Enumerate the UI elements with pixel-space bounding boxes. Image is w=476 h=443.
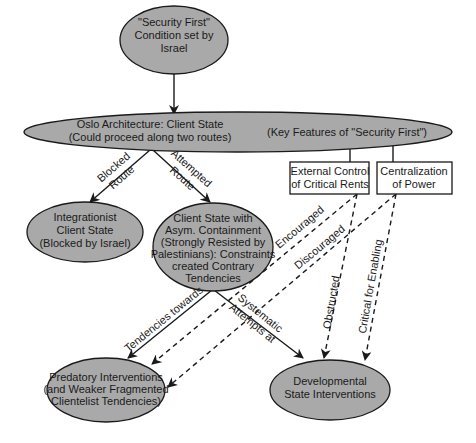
node-text: Clientelist Tendencies) [51, 395, 161, 407]
edge-label-critical-for-enabling: Critical for Enabling [356, 238, 384, 334]
node-text: "Security First" [138, 16, 210, 28]
node-integrationist: Integrationist Client State (Blocked by … [27, 202, 143, 262]
node-text: (Could proceed along two routes) [69, 131, 232, 143]
node-text: Palestinians): Constraints [151, 248, 276, 260]
node-text: Integrationist [54, 211, 117, 223]
edge-label-obstructed: Obstructed [320, 275, 341, 330]
diagram-canvas: "Security First" Condition set by Israel… [0, 0, 476, 443]
node-centralization: Centralization of Power [377, 162, 452, 194]
node-external-control: External Control of Critical Rents [290, 162, 369, 194]
node-text: (and Weaker Fragmented [43, 383, 168, 395]
node-text: Centralization [380, 165, 447, 177]
node-text: (Strongly Resisted by [161, 236, 266, 248]
node-developmental: Developmental State Interventions [270, 360, 390, 420]
node-asym-containment: Client State with Asym. Containment (Str… [151, 203, 276, 291]
node-text: Asym. Containment [165, 224, 261, 236]
edge-label-tendencies: Tendencies towards [122, 283, 205, 354]
edge-tendencies-towards [128, 290, 212, 358]
node-text: State Interventions [284, 388, 376, 400]
node-text: of Power [392, 178, 436, 190]
node-oslo-architecture: Oslo Architecture: Client State (Could p… [24, 112, 452, 152]
node-text: Israel [161, 42, 188, 54]
node-text: Client State with [173, 212, 252, 224]
node-text: Client State [57, 224, 114, 236]
node-text: Developmental [293, 375, 366, 387]
node-text: Condition set by [135, 29, 214, 41]
node-text: External Control [291, 165, 370, 177]
node-security-first: "Security First" Condition set by Israel [120, 6, 228, 74]
node-text: Tendencies [185, 272, 241, 284]
node-text: Oslo Architecture: Client State [77, 118, 224, 130]
node-predatory: Predatory Interventions (and Weaker Frag… [43, 358, 168, 422]
key-features-label: (Key Features of "Security First") [267, 126, 427, 138]
node-text: of Critical Rents [291, 178, 369, 190]
node-text: created Contrary [172, 260, 254, 272]
node-text: Predatory Interventions [49, 371, 163, 383]
node-text: (Blocked by Israel) [39, 237, 130, 249]
